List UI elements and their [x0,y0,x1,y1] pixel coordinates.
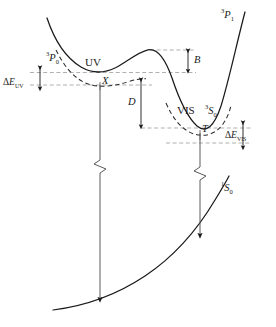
label-term-3s0: 3S0 [205,104,217,118]
curve-3s0-dashed [166,103,231,135]
label-delta-e-vis-sub: VIS [237,136,246,142]
label-delta-e-uv: ΔEUV [3,78,23,90]
uv-arrow-break-mark [94,160,106,173]
label-barrier-b: B [194,55,200,66]
vis-transition-arrow [194,133,206,236]
potential-energy-diagram [0,0,276,327]
label-delta-e-uv-sub: UV [15,83,24,89]
label-term-1s0-sub: 0 [230,188,233,195]
uv-transition-arrow [94,85,106,300]
label-point-t: T [202,124,208,135]
label-depth-d: D [128,97,136,108]
label-term-3p1: 3P1 [221,8,234,22]
label-uv: UV [85,57,101,68]
label-term-1s0: 1S0 [221,181,233,195]
curve-3p0-dashed [56,50,146,86]
label-point-x: X [102,76,108,87]
figure-canvas: 3P1 3P0 3S0 1S0 UV VIS X T B D ΔEUV ΔEVI… [0,0,276,327]
curve-1s0-ground-state [53,176,229,310]
label-term-3p0-sub: 0 [56,58,59,65]
label-term-3s0-sub: 0 [214,111,217,118]
label-vis: VIS [177,105,195,116]
label-delta-e-vis: ΔEVIS [225,131,246,143]
vis-arrow-break-mark [194,167,206,180]
label-term-3p1-sub: 1 [231,15,234,22]
label-term-3p0: 3P0 [46,51,59,65]
